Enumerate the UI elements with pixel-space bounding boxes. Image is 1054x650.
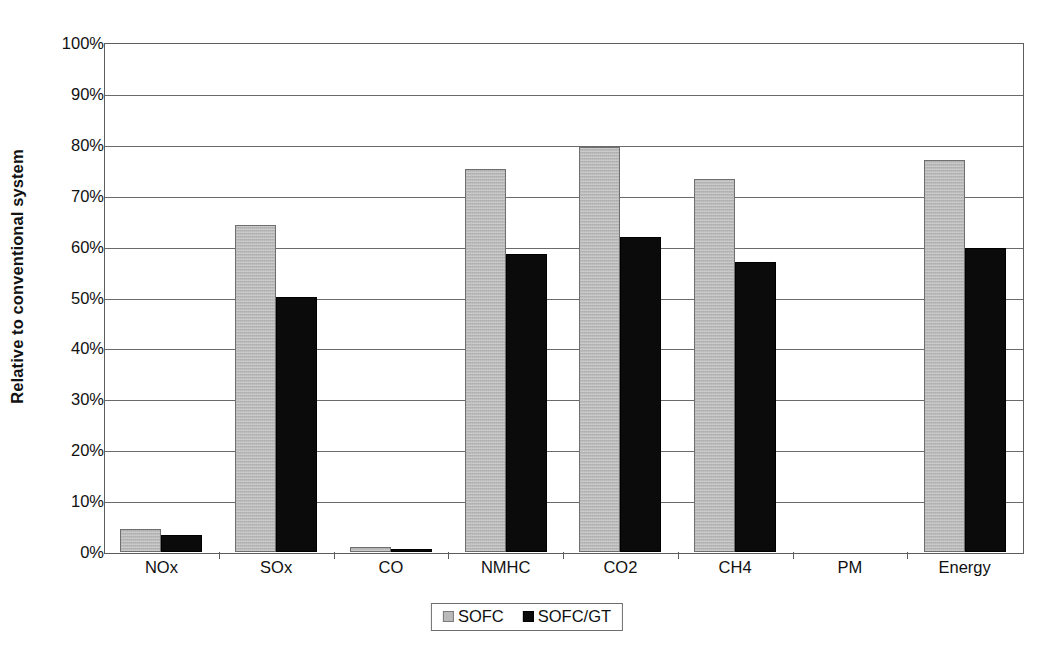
black-square-swatch — [523, 611, 534, 622]
y-tick-label: 30% — [34, 390, 104, 409]
gridline — [105, 299, 1023, 300]
legend-label: SOFC/GT — [538, 607, 611, 626]
gridline — [105, 349, 1023, 350]
y-tick-label: 80% — [34, 135, 104, 154]
x-tick-label-nox: NOx — [145, 558, 178, 577]
y-tick-label: 100% — [34, 34, 104, 53]
y-tick-label: 20% — [34, 441, 104, 460]
chart-figure: Relative to conventional system 0%10%20%… — [0, 0, 1054, 650]
legend-entry-sofc-gt: SOFC/GT — [523, 607, 611, 626]
gridline — [105, 502, 1023, 503]
x-tick-label-co: CO — [379, 558, 404, 577]
y-axis-ticks: 0%10%20%30%40%50%60%70%80%90%100% — [26, 43, 104, 552]
gridline — [105, 146, 1023, 147]
y-tick-label: 50% — [34, 288, 104, 307]
y-tick-label: 70% — [34, 186, 104, 205]
gridline — [105, 95, 1023, 96]
y-tick-label: 40% — [34, 339, 104, 358]
gridline — [105, 248, 1023, 249]
y-axis-title-text: Relative to conventional system — [8, 149, 27, 403]
x-tick-label-ch4: CH4 — [719, 558, 752, 577]
gridline — [105, 400, 1023, 401]
x-axis-labels: NOxSOxCONMHCCO2CH4PMEnergy — [104, 558, 1022, 588]
y-tick-label: 60% — [34, 237, 104, 256]
legend-entry-sofc: SOFC — [443, 607, 504, 626]
gridline — [105, 451, 1023, 452]
y-tick-label: 0% — [34, 543, 104, 562]
x-tick-label-pm: PM — [838, 558, 863, 577]
y-tick-label: 10% — [34, 492, 104, 511]
legend-label: SOFC — [458, 607, 504, 626]
x-tick-label-energy: Energy — [938, 558, 990, 577]
gray-square-swatch — [443, 611, 454, 622]
chart-legend: SOFCSOFC/GT — [431, 603, 623, 631]
x-tick-label-nmhc: NMHC — [481, 558, 531, 577]
x-tick-label-sox: SOx — [260, 558, 292, 577]
gridline — [105, 197, 1023, 198]
y-tick-label: 90% — [34, 84, 104, 103]
x-tick-label-co2: CO2 — [603, 558, 637, 577]
plot-area — [104, 43, 1024, 554]
